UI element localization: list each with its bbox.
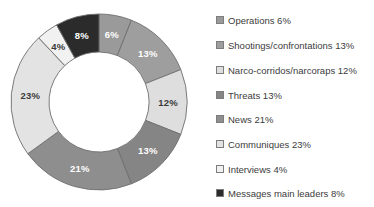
legend-swatch-icon — [216, 165, 224, 173]
donut-slice-label: 6% — [105, 29, 119, 40]
legend-swatch-icon — [216, 16, 224, 24]
donut-chart-svg: 6%13%12%13%21%23%4%8% — [0, 0, 205, 207]
legend-item-label: Communiques 23% — [228, 139, 311, 150]
donut-slice-label: 8% — [75, 30, 89, 41]
donut-slice-label: 13% — [138, 145, 158, 156]
legend-item-narco-corridos[interactable]: Narco-corridos/narcoraps 12% — [216, 64, 357, 76]
legend-item-interviews[interactable]: Interviews 4% — [216, 163, 287, 175]
legend-swatch-icon — [216, 41, 224, 49]
legend-item-label: Interviews 4% — [228, 164, 287, 175]
legend-swatch-icon — [216, 66, 224, 74]
legend-item-label: Threats 13% — [228, 90, 282, 101]
chart-legend: Operations 6%Shootings/confrontations 13… — [216, 0, 374, 207]
donut-slice-label: 13% — [138, 48, 158, 59]
legend-item-threats[interactable]: Threats 13% — [216, 89, 282, 101]
donut-slice-label: 12% — [158, 97, 178, 108]
legend-item-label: Narco-corridos/narcoraps 12% — [228, 65, 357, 76]
legend-item-label: Messages main leaders 8% — [228, 188, 345, 199]
legend-item-messages-main-leaders[interactable]: Messages main leaders 8% — [216, 187, 345, 199]
donut-chart: 6%13%12%13%21%23%4%8% — [0, 0, 205, 207]
legend-item-news[interactable]: News 21% — [216, 113, 273, 125]
legend-swatch-icon — [216, 115, 224, 123]
donut-slice-label: 23% — [20, 90, 40, 101]
donut-slice-label: 4% — [51, 41, 65, 52]
chart-page: 6%13%12%13%21%23%4%8% Operations 6%Shoot… — [0, 0, 374, 207]
donut-slice-label: 21% — [70, 163, 90, 174]
legend-item-label: Shootings/confrontations 13% — [228, 40, 354, 51]
legend-item-communiques[interactable]: Communiques 23% — [216, 138, 311, 150]
legend-swatch-icon — [216, 189, 224, 197]
legend-swatch-icon — [216, 91, 224, 99]
legend-item-operations[interactable]: Operations 6% — [216, 14, 291, 26]
legend-item-label: News 21% — [228, 114, 273, 125]
legend-swatch-icon — [216, 140, 224, 148]
legend-item-label: Operations 6% — [228, 15, 291, 26]
legend-item-shootings[interactable]: Shootings/confrontations 13% — [216, 39, 354, 51]
